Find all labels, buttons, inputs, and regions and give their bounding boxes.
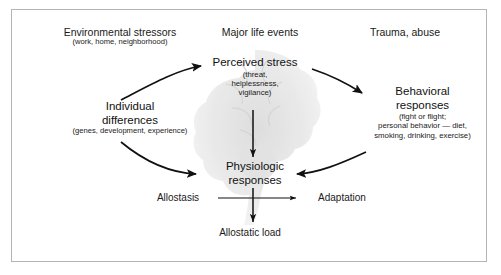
node-allostatic-load: Allostatic load bbox=[195, 227, 305, 239]
node-physiologic-responses: Physiologic responses bbox=[200, 160, 310, 187]
allostasis-title: Allostasis bbox=[142, 192, 214, 204]
individual-differences-title-line-1: Individual bbox=[50, 100, 210, 114]
allostatic-load-diagram: Environmental stressors (work, home, nei… bbox=[0, 0, 501, 275]
environmental-stressors-detail: (work, home, neighborhood) bbox=[30, 38, 210, 47]
behavioral-responses-detail-line-2: personal behavior — diet, bbox=[355, 121, 490, 130]
physiologic-responses-title-line-1: Physiologic bbox=[200, 160, 310, 174]
perceived-stress-title: Perceived stress bbox=[190, 56, 320, 70]
node-adaptation: Adaptation bbox=[300, 192, 384, 204]
trauma-abuse-title: Trauma, abuse bbox=[330, 26, 480, 38]
node-individual-differences: Individual differences (genes, developme… bbox=[50, 100, 210, 136]
individual-differences-detail: (genes, development, experience) bbox=[50, 127, 210, 136]
node-behavioral-responses: Behavioral responses (fight or flight; p… bbox=[355, 85, 490, 140]
perceived-stress-detail-line-2: helplessness, bbox=[190, 79, 320, 88]
behavioral-responses-title-line-1: Behavioral bbox=[355, 85, 490, 99]
node-major-life-events: Major life events bbox=[180, 26, 340, 38]
node-trauma-abuse: Trauma, abuse bbox=[330, 26, 480, 38]
perceived-stress-detail-line-3: vigilance) bbox=[190, 88, 320, 97]
physiologic-responses-title-line-2: responses bbox=[200, 174, 310, 188]
perceived-stress-detail-line-1: (threat, bbox=[190, 70, 320, 79]
allostatic-load-title: Allostatic load bbox=[195, 227, 305, 239]
node-allostasis: Allostasis bbox=[142, 192, 214, 204]
adaptation-title: Adaptation bbox=[300, 192, 384, 204]
node-perceived-stress: Perceived stress (threat, helplessness, … bbox=[190, 56, 320, 97]
behavioral-responses-detail-line-3: smoking, drinking, exercise) bbox=[355, 131, 490, 140]
behavioral-responses-detail-line-1: (fight or flight; bbox=[355, 112, 490, 121]
behavioral-responses-title-line-2: responses bbox=[355, 99, 490, 113]
individual-differences-title-line-2: differences bbox=[50, 114, 210, 128]
major-life-events-title: Major life events bbox=[180, 26, 340, 38]
